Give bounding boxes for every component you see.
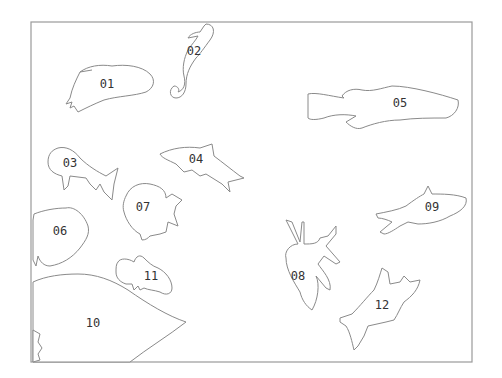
svg-text:04: 04 <box>189 152 203 166</box>
svg-text:11: 11 <box>144 269 158 283</box>
svg-text:06: 06 <box>53 224 67 238</box>
svg-text:12: 12 <box>375 298 389 312</box>
diagram-canvas: 01 02 03 04 05 06 07 08 09 <box>0 0 502 378</box>
shape-02: 02 <box>170 24 213 98</box>
shape-06: 06 <box>33 208 89 266</box>
svg-text:01: 01 <box>100 77 114 91</box>
shape-04: 04 <box>160 144 244 192</box>
svg-text:07: 07 <box>136 200 150 214</box>
shape-08: 08 <box>286 220 340 310</box>
shape-05: 05 <box>308 86 458 129</box>
shape-03: 03 <box>48 147 118 200</box>
svg-text:08: 08 <box>291 269 305 283</box>
shape-07: 07 <box>123 184 182 241</box>
shape-01: 01 <box>66 65 153 112</box>
shape-09: 09 <box>376 186 466 234</box>
svg-text:03: 03 <box>63 156 77 170</box>
svg-text:10: 10 <box>86 316 100 330</box>
svg-text:05: 05 <box>393 96 407 110</box>
shape-12: 12 <box>340 268 420 350</box>
svg-text:09: 09 <box>425 200 439 214</box>
svg-text:02: 02 <box>187 44 201 58</box>
